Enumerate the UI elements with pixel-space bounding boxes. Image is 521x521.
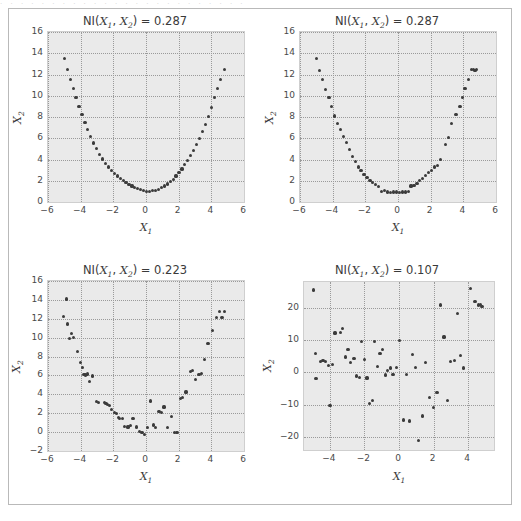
x-axis-tick-label: 4 <box>459 205 465 215</box>
y-axis-tick-label: 14 <box>17 47 43 57</box>
data-point <box>439 158 442 161</box>
y-axis-tick-label: 2 <box>17 175 43 185</box>
data-point <box>68 337 71 340</box>
gridline-vertical <box>330 282 331 450</box>
gridline-vertical <box>211 32 212 202</box>
data-point <box>195 143 198 146</box>
xlabel-sub: 1 <box>148 227 153 236</box>
data-point <box>207 115 210 118</box>
xlabel-sub: 1 <box>401 476 406 485</box>
gridline-vertical <box>431 32 432 202</box>
y-axis-tick-label: 14 <box>269 47 295 57</box>
data-point <box>194 378 197 381</box>
data-point <box>346 348 349 351</box>
data-point <box>318 69 321 72</box>
y-axis-tick-label: 16 <box>17 275 43 285</box>
data-point <box>63 57 66 60</box>
data-point <box>376 365 379 368</box>
data-point <box>359 169 362 172</box>
data-point <box>473 300 476 303</box>
gridline-horizontal <box>48 451 244 452</box>
x-axis-tick-label: −2 <box>358 205 371 215</box>
data-point <box>98 153 101 156</box>
data-point <box>391 373 394 376</box>
data-point <box>121 417 124 420</box>
data-point <box>154 426 157 429</box>
plot-title-top-right: NI(X1, X2) = 0.287 <box>261 14 513 30</box>
data-point <box>469 287 472 290</box>
data-point <box>223 310 226 313</box>
ylabel-sub: 2 <box>267 359 276 364</box>
title-prefix: NI( <box>335 263 351 277</box>
data-point <box>336 122 339 125</box>
x-axis-tick-label: 6 <box>240 454 246 464</box>
data-point <box>348 148 351 151</box>
gridline-vertical <box>244 281 245 451</box>
xlabel-sub: 1 <box>148 476 153 485</box>
data-point <box>172 178 175 181</box>
title-separator: , <box>364 14 371 28</box>
gridline-vertical <box>244 32 245 202</box>
title-suffix: ) = <box>133 14 154 28</box>
data-point <box>180 167 183 170</box>
data-point <box>398 339 401 342</box>
data-point <box>459 354 462 357</box>
data-point <box>351 155 354 158</box>
y-axis-tick-label: 4 <box>269 154 295 164</box>
data-point <box>415 182 418 185</box>
data-point <box>107 165 110 168</box>
x-axis-tick-label: 2 <box>427 205 433 215</box>
gridline-vertical <box>179 32 180 202</box>
x-axis-tick-label: 2 <box>175 454 181 464</box>
data-point <box>446 399 449 402</box>
data-point <box>363 358 366 361</box>
y-axis-tick-label: 6 <box>269 132 295 142</box>
gridline-vertical <box>300 32 301 202</box>
y-axis-tick-label: 10 <box>269 90 295 100</box>
panel-top-right: NI(X1, X2) = 0.287 X1 X2 0246810121416−6… <box>261 9 513 257</box>
data-point <box>333 114 336 117</box>
gridline-vertical <box>463 32 464 202</box>
data-point <box>72 87 75 90</box>
data-point <box>414 366 417 369</box>
data-point <box>170 415 173 418</box>
gridline-vertical <box>211 281 212 451</box>
data-point <box>86 372 89 375</box>
data-point <box>177 171 180 174</box>
data-point <box>314 352 317 355</box>
data-point <box>327 364 330 367</box>
y-axis-tick-label: −2 <box>17 445 43 455</box>
data-point <box>66 322 69 325</box>
axes-bottom-right <box>303 281 495 451</box>
x-axis-tick-label: −6 <box>292 205 305 215</box>
x-axis-tick-label: −2 <box>106 205 119 215</box>
y-axis-tick-label: 0 <box>17 196 43 206</box>
y-axis-tick-label: 20 <box>273 302 299 312</box>
title-var-x1: X <box>99 263 107 277</box>
gridline-vertical <box>364 282 365 450</box>
data-point <box>83 121 86 124</box>
data-point <box>204 123 207 126</box>
data-point <box>91 374 94 377</box>
panel-top-left: NI(X1, X2) = 0.287 X1 X2 0246810121416−6… <box>9 9 261 257</box>
y-axis-tick-label: 6 <box>17 132 43 142</box>
data-point <box>371 399 374 402</box>
xlabel-top-right: X1 <box>299 221 497 236</box>
y-axis-tick-label: 10 <box>17 90 43 100</box>
data-point <box>341 327 344 330</box>
gridline-vertical <box>48 32 49 202</box>
data-point <box>447 136 450 139</box>
title-separator: , <box>112 14 119 28</box>
figure-frame: NI(X1, X2) = 0.287 X1 X2 0246810121416−6… <box>8 8 512 505</box>
panel-bottom-right: NI(X1, X2) = 0.107 X1 X2 −20−1001020−4−2… <box>261 257 513 506</box>
data-point <box>66 68 69 71</box>
y-axis-tick-label: 10 <box>273 334 299 344</box>
gridline-vertical <box>48 281 49 451</box>
data-point <box>69 78 72 81</box>
data-point <box>324 360 327 363</box>
data-point <box>480 305 483 308</box>
y-axis-tick-label: 8 <box>269 111 295 121</box>
title-var-x2: X <box>120 14 128 28</box>
data-point <box>456 312 459 315</box>
x-axis-tick-label: 0 <box>394 205 400 215</box>
